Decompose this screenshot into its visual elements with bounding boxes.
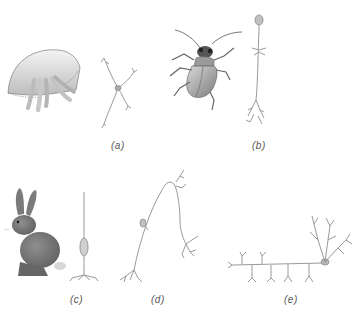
jellyfish-illustration (8, 50, 80, 110)
neuron-figure: (a) (b) (c) (d) (e) (0, 0, 362, 313)
figure-artwork (0, 0, 362, 313)
panel-label-c: (c) (70, 294, 83, 305)
nerve-net-neuron (101, 58, 137, 128)
motor-neuron (228, 216, 352, 282)
bipolar-neuron (70, 192, 98, 281)
sensory-neuron (120, 170, 198, 282)
panel-label-b: (b) (252, 140, 266, 151)
panel-label-a: (a) (111, 140, 125, 151)
panel-label-d: (d) (151, 294, 165, 305)
panel-label-e: (e) (284, 294, 298, 305)
beetle-illustration (170, 30, 242, 110)
rabbit-illustration (4, 188, 66, 276)
unipolar-neuron (246, 15, 266, 124)
